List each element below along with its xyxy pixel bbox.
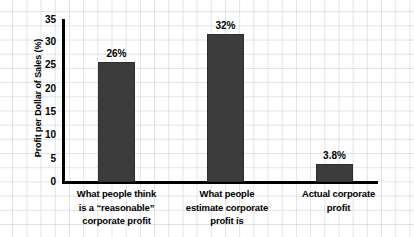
bar-estimated-profit [207, 34, 244, 182]
bar-actual-profit [316, 164, 353, 182]
bar-chart: Profit per Dollar of Sales (%) 0 5 10 15… [0, 0, 414, 237]
bar-value-label-3: 3.8% [310, 150, 359, 161]
category-label-2-line-2: estimate corporate [172, 201, 282, 215]
y-axis-line [62, 19, 65, 183]
y-tick-label-35: 35 [34, 15, 56, 25]
y-tick-label-5: 5 [34, 154, 56, 164]
category-label-3-line-2: profit [288, 201, 389, 215]
y-tick-label-15: 15 [34, 107, 56, 117]
bar-reasonable-profit [98, 62, 135, 182]
category-label-2-line-3: profit is [172, 214, 282, 228]
category-label-1: What people think is a “reasonable” corp… [60, 187, 173, 228]
category-label-2: What people estimate corporate profit is [172, 187, 282, 228]
bar-value-label-2: 32% [205, 20, 246, 31]
y-tick-label-10: 10 [34, 130, 56, 140]
category-label-2-line-1: What people [172, 187, 282, 201]
category-label-3-line-1: Actual corporate [288, 187, 389, 201]
category-label-1-line-3: corporate profit [60, 214, 173, 228]
category-label-1-line-2: is a “reasonable” [60, 201, 173, 215]
y-tick-label-0: 0 [34, 177, 56, 187]
y-tick-label-20: 20 [34, 84, 56, 94]
category-label-3: Actual corporate profit [288, 187, 389, 214]
bar-value-label-1: 26% [96, 48, 137, 59]
y-tick-label-25: 25 [34, 60, 56, 70]
category-label-1-line-1: What people think [60, 187, 173, 201]
y-tick-label-30: 30 [34, 37, 56, 47]
